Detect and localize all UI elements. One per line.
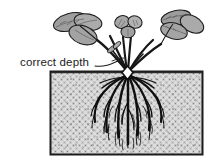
- leaf-right: [159, 8, 207, 44]
- figure-root: correct depth: [0, 0, 212, 168]
- annotation-correct-depth: correct depth: [20, 56, 124, 68]
- petiole-center: [128, 36, 131, 71]
- soil-block: [51, 72, 203, 155]
- leaf-center: [113, 13, 144, 37]
- planting-depth-diagram: correct depth: [0, 0, 212, 168]
- petiole-stub-right: [129, 54, 143, 71]
- correct-depth-label: correct depth: [20, 56, 89, 68]
- leaf-left: [51, 9, 103, 48]
- soil-stipple-overlay: [51, 72, 203, 155]
